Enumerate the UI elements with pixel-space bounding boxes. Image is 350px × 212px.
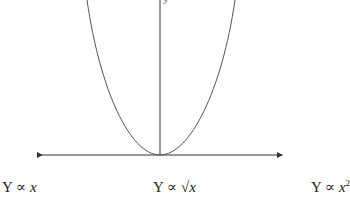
label-var: x [339, 179, 346, 195]
label-sqrt: Y ∝ √x [153, 178, 196, 196]
label-exponent: 2 [346, 178, 350, 188]
label-prefix: Y ∝ [311, 179, 339, 195]
label-linear: Y ∝ x [2, 178, 37, 196]
label-var: x [30, 179, 37, 195]
label-var: √x [181, 179, 196, 195]
label-prefix: Y ∝ [2, 179, 30, 195]
label-square: Y ∝ x2 [311, 178, 350, 196]
label-prefix: Y ∝ [153, 179, 181, 195]
y-axis-label: y [164, 0, 168, 4]
parabola-curve [87, 0, 235, 155]
